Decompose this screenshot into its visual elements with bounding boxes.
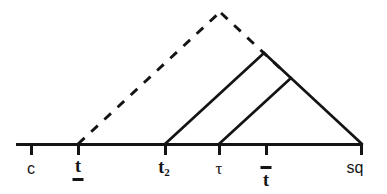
inner-triangle [219,78,291,144]
tick-label-tau-text: τ [216,159,223,178]
solid-left-leg [165,53,264,144]
tick-label-c: c [27,160,35,177]
solid-right-leg [264,53,362,144]
tick-label-tau: τ [216,160,223,177]
solid-triangle [165,53,362,144]
underbar-rule [73,178,84,181]
overbar-rule [261,166,272,169]
dashed-triangle [78,12,282,144]
tick-label-t2-subscript: 2 [164,166,170,178]
diagram-svg [0,0,387,194]
tick-label-c-text: c [27,160,35,177]
tick-label-t2: t2 [158,158,170,178]
tick-label-t-underbar: t [73,157,84,181]
tick-label-t-overbar: t [261,155,272,189]
figure-canvas: c t t2 τ t sq [0,0,387,194]
tick-label-t-overbar-text: t [263,171,269,189]
tick-label-t-underbar-text: t [75,157,81,175]
inner-left-leg [219,78,291,144]
dashed-left-leg [78,12,220,144]
tick-label-sq: sq [347,159,364,176]
tick-label-sq-text: sq [347,159,364,176]
